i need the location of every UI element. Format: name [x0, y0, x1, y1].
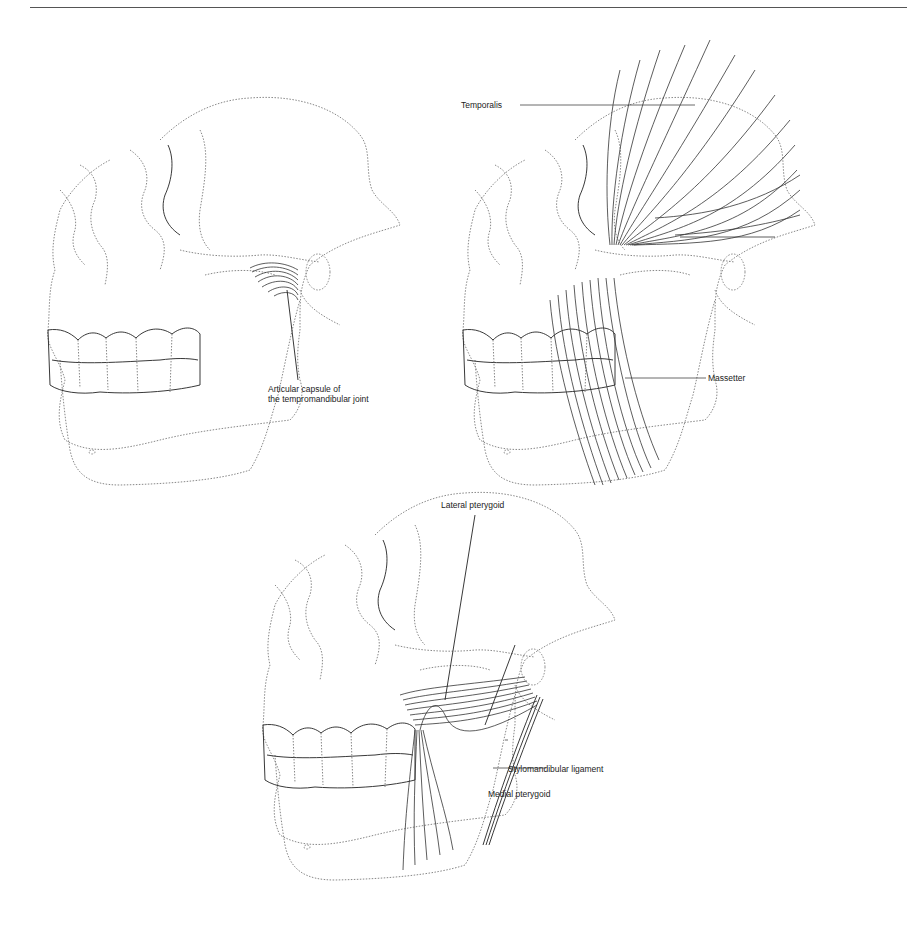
- lateral-pterygoid-leader: [445, 515, 475, 700]
- anatomy-illustrations: [0, 0, 907, 932]
- figure-temporalis-masseter: [463, 40, 815, 485]
- label-stylomandibular-ligament: Stylomandibular ligament: [508, 764, 603, 774]
- label-temporalis: Temporalis: [461, 100, 502, 110]
- figure-joint: [48, 97, 400, 485]
- label-line-2: the tempromandibular joint: [268, 394, 369, 404]
- label-massetter: Massetter: [708, 373, 745, 383]
- label-medial-pterygoid: Medial pterygoid: [488, 789, 550, 799]
- label-lateral-pterygoid: Lateral pterygoid: [441, 500, 504, 510]
- label-articular-capsule: Articular capsule of the tempromandibula…: [268, 384, 369, 404]
- figure-pterygoids: [263, 492, 615, 880]
- label-line-1: Articular capsule of: [268, 384, 369, 394]
